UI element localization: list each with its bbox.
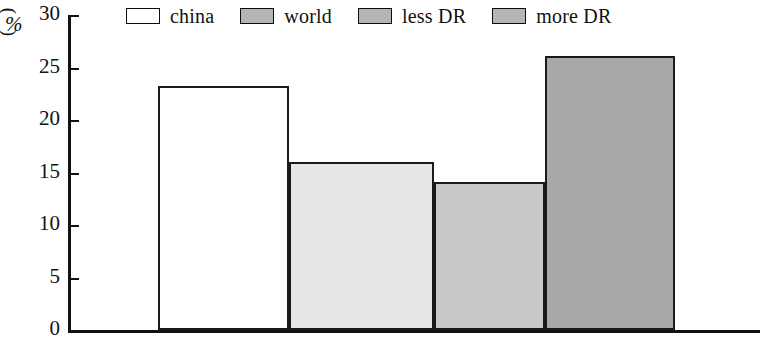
plot-area: 051015202530 <box>68 15 760 332</box>
y-tick-label: 0 <box>50 317 61 339</box>
y-tick-label: 25 <box>39 55 60 77</box>
y-tick-label: 5 <box>50 265 61 287</box>
bar-less-dr <box>434 182 545 330</box>
bar-more-dr <box>545 56 675 330</box>
bar-world <box>289 162 434 330</box>
y-tick-label: 10 <box>39 212 60 234</box>
paren-close-glyph: ) <box>0 30 20 36</box>
bar-china <box>158 86 289 330</box>
bar-chart: china world less DR more DR ( % ) 051015… <box>0 0 760 341</box>
y-axis-unit-label: ( % ) <box>2 4 28 40</box>
bar-series <box>68 15 760 332</box>
y-tick-label: 15 <box>39 160 60 182</box>
y-tick-label: 20 <box>39 107 60 129</box>
y-tick-label: 30 <box>39 2 60 24</box>
